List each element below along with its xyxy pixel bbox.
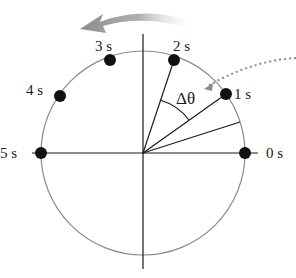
label-1s: 1 s: [234, 86, 251, 102]
circular-motion-diagram: Δθ 0 s 1 s 2 s 3 s 4 s 5 s: [0, 0, 296, 278]
point-0s: [239, 147, 251, 159]
point-1s: [220, 88, 232, 100]
label-2s: 2 s: [173, 38, 190, 54]
label-5s: 5 s: [0, 145, 17, 161]
point-5s: [35, 147, 47, 159]
point-3s: [104, 54, 116, 66]
radius-line-extra: [143, 122, 240, 153]
radius-line-2s: [143, 60, 174, 153]
rotation-arrow-icon: [80, 13, 198, 33]
delta-theta-label: Δθ: [176, 89, 195, 108]
label-0s: 0 s: [266, 145, 283, 161]
point-2s: [168, 54, 180, 66]
label-3s: 3 s: [95, 38, 112, 54]
point-4s: [54, 90, 66, 102]
label-4s: 4 s: [26, 82, 43, 98]
